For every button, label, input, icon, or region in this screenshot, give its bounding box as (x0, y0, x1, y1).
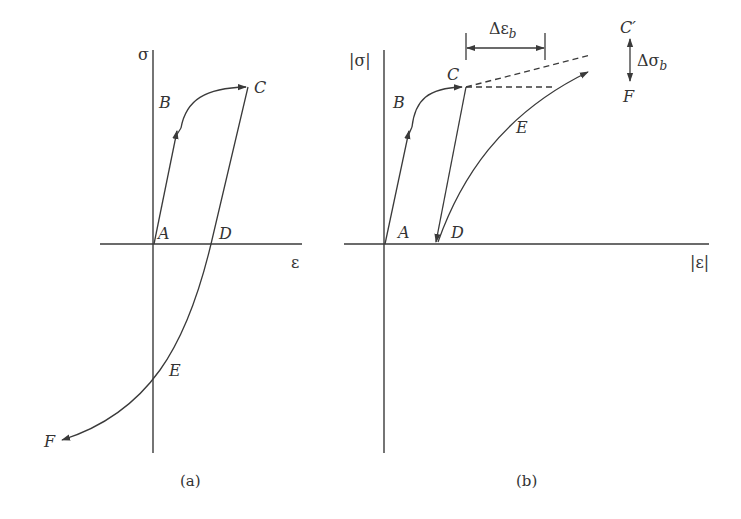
point-c-label: C (254, 78, 266, 97)
point-c-label: C (447, 65, 459, 84)
point-d-label: D (218, 224, 232, 243)
point-f-label: F (622, 87, 635, 106)
point-c-prime-label: C′ (620, 18, 636, 37)
point-b-label: B (158, 93, 171, 112)
delta-eps-b-label: Δεb (489, 19, 517, 41)
plastic-curve-bc (181, 87, 246, 128)
point-d-label: D (450, 223, 464, 242)
reverse-curve-de (438, 72, 588, 242)
panel-a: σ ε A B C D E F (a) (43, 45, 302, 490)
plastic-curve-bc (412, 87, 462, 127)
point-a-label: A (156, 224, 170, 243)
reverse-curve-cdef (62, 87, 248, 440)
epsilon-axis-label: ε (291, 253, 299, 272)
dashed-extension-c-prime (466, 55, 590, 87)
abs-sigma-axis-label: |σ| (349, 51, 371, 70)
point-e-label: E (168, 361, 181, 380)
abs-epsilon-axis-label: |ε| (690, 253, 709, 272)
point-e-label: E (515, 118, 528, 137)
point-b-label: B (392, 93, 405, 112)
stress-strain-diagram: σ ε A B C D E F (a) |σ| |ε| (0, 0, 741, 519)
caption-b: (b) (516, 472, 537, 490)
caption-a: (a) (180, 472, 201, 490)
sigma-axis-label: σ (138, 45, 149, 64)
point-a-label: A (396, 223, 410, 242)
delta-sigma-b-label: Δσb (637, 51, 667, 73)
panel-b: |σ| |ε| Δεb Δσb C′ F A B C D E (b) (344, 18, 709, 490)
unloading-arrow-cd (436, 87, 466, 242)
point-f-label: F (43, 432, 56, 451)
